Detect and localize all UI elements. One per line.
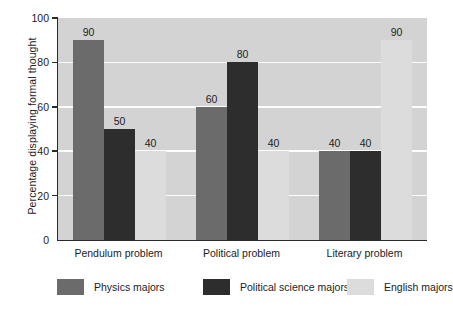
legend-item: English majors — [347, 278, 453, 296]
y-tick-mark — [52, 62, 58, 64]
chart-legend: Physics majorsPolitical science majorsEn… — [57, 278, 437, 298]
bar-value-label: 40 — [329, 137, 341, 149]
y-tick-label: 100 — [31, 12, 49, 24]
y-axis-title: Percentage displaying formal thought — [26, 10, 38, 242]
bar: 50 — [104, 129, 135, 240]
y-tick-mark — [52, 150, 58, 152]
legend-swatch — [57, 279, 84, 295]
legend-item: Political science majors — [203, 278, 349, 296]
bar: 40 — [135, 151, 166, 240]
bar: 40 — [319, 151, 350, 240]
x-category-label: Pendulum problem — [74, 247, 162, 259]
legend-label: Physics majors — [94, 281, 165, 293]
bar-value-label: 50 — [114, 115, 126, 127]
bar-value-label: 80 — [237, 48, 249, 60]
y-tick-mark — [52, 195, 58, 197]
plot-inner: 905040608040404090 — [58, 18, 427, 240]
legend-swatch — [347, 279, 374, 295]
y-tick-mark — [52, 106, 58, 108]
bar-value-label: 60 — [206, 93, 218, 105]
bar: 40 — [350, 151, 381, 240]
y-tick-label: 40 — [37, 145, 49, 157]
bar-value-label: 90 — [391, 26, 403, 38]
bar-value-label: 40 — [360, 137, 372, 149]
y-tick-mark — [52, 17, 58, 19]
bar: 80 — [227, 62, 258, 240]
bar-value-label: 90 — [83, 26, 95, 38]
plot-area: 905040608040404090 020406080100 — [57, 18, 427, 241]
bar-value-label: 40 — [268, 137, 280, 149]
y-tick-label: 20 — [37, 190, 49, 202]
bar: 40 — [258, 151, 289, 240]
legend-label: Political science majors — [240, 281, 349, 293]
bar: 90 — [381, 40, 412, 240]
y-tick-label: 0 — [43, 234, 49, 246]
bar: 60 — [196, 107, 227, 240]
bar-value-label: 40 — [145, 137, 157, 149]
x-category-label: Literary problem — [327, 247, 403, 259]
legend-label: English majors — [384, 281, 453, 293]
y-tick-label: 60 — [37, 101, 49, 113]
y-tick-label: 80 — [37, 56, 49, 68]
legend-swatch — [203, 279, 230, 295]
legend-item: Physics majors — [57, 278, 165, 296]
bar: 90 — [73, 40, 104, 240]
x-category-label: Political problem — [203, 247, 280, 259]
